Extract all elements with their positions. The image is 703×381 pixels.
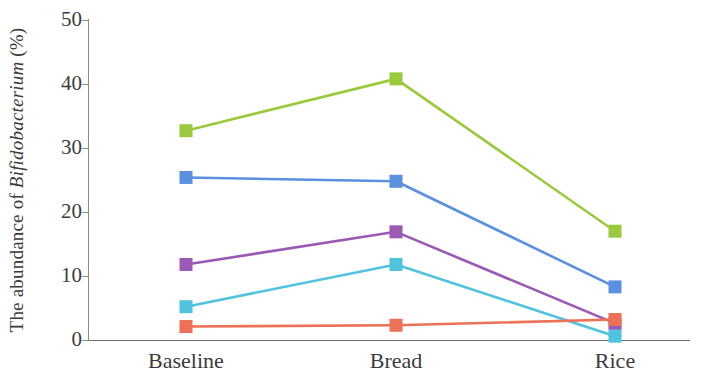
series-purple-line <box>186 232 615 324</box>
series-purple <box>180 225 622 330</box>
series-blue-marker <box>180 171 193 184</box>
series-blue-marker <box>390 175 403 188</box>
series-plot <box>0 0 703 381</box>
series-orange-marker <box>180 320 193 333</box>
series-green <box>180 72 622 237</box>
line-chart: The abundance of Bifidobacterium (%) 010… <box>0 0 703 381</box>
series-cyan-marker <box>390 258 403 271</box>
series-green-marker <box>609 225 622 238</box>
series-green-marker <box>390 72 403 85</box>
series-purple-marker <box>390 225 403 238</box>
series-cyan-marker <box>609 330 622 343</box>
series-cyan-marker <box>180 300 193 313</box>
series-green-marker <box>180 124 193 137</box>
series-purple-marker <box>180 258 193 271</box>
series-blue-marker <box>609 280 622 293</box>
series-orange-marker <box>390 319 403 332</box>
series-orange-marker <box>609 313 622 326</box>
series-green-line <box>186 79 615 231</box>
